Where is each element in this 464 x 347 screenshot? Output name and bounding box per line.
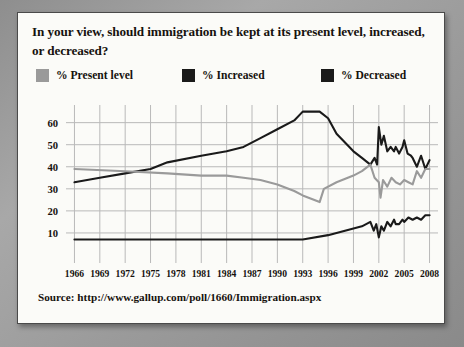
x-tick-label: 1990 <box>268 268 287 279</box>
x-tick-label: 1993 <box>293 268 312 279</box>
x-tick-label: 1975 <box>141 268 160 279</box>
x-tick-label: 1972 <box>116 268 135 279</box>
screenshot-page: In your view, should immigration be kept… <box>0 0 464 347</box>
y-axis-tick-labels: 102030405060 <box>47 118 58 239</box>
legend-item-decreased: % Decreased <box>321 69 406 82</box>
x-tick-label: 2005 <box>395 268 414 279</box>
x-tick-label: 1966 <box>65 268 84 279</box>
x-axis-tick-labels: 1966196919721975197819811984198719901993… <box>65 268 439 279</box>
chart-legend: % Present level % Increased % Decreased <box>36 69 436 89</box>
y-tick-label: 30 <box>47 184 58 195</box>
legend-label-decreased: % Decreased <box>341 69 406 82</box>
y-tick-label: 50 <box>47 140 58 151</box>
chart-card: In your view, should immigration be kept… <box>17 12 445 324</box>
chart-plot-area: 102030405060 196619691972197519781981198… <box>18 97 446 287</box>
x-tick-label: 1999 <box>344 268 363 279</box>
legend-swatch-decreased <box>321 69 334 82</box>
y-tick-label: 10 <box>47 228 58 239</box>
x-tick-label: 1969 <box>90 268 109 279</box>
x-tick-label: 1978 <box>166 268 185 279</box>
source-citation: Source: http://www.gallup.com/poll/1660/… <box>38 291 321 303</box>
legend-swatch-increased <box>182 69 195 82</box>
y-tick-label: 40 <box>47 162 58 173</box>
legend-item-present-level: % Present level <box>36 69 133 82</box>
y-tick-label: 60 <box>47 118 58 129</box>
x-tick-label: 1987 <box>242 268 261 279</box>
legend-item-increased: % Increased <box>182 69 265 82</box>
y-tick-label: 20 <box>47 206 58 217</box>
legend-label-present-level: % Present level <box>56 69 133 82</box>
x-tick-label: 1981 <box>192 268 211 279</box>
legend-label-increased: % Increased <box>202 69 265 82</box>
x-tick-label: 2002 <box>369 268 388 279</box>
legend-swatch-present-level <box>36 69 49 82</box>
x-tick-label: 1996 <box>318 268 337 279</box>
x-tick-label: 2008 <box>420 268 439 279</box>
x-tick-label: 1984 <box>217 268 236 279</box>
chart-title: In your view, should immigration be kept… <box>32 23 432 60</box>
line-chart-svg: 102030405060 196619691972197519781981198… <box>18 97 446 287</box>
